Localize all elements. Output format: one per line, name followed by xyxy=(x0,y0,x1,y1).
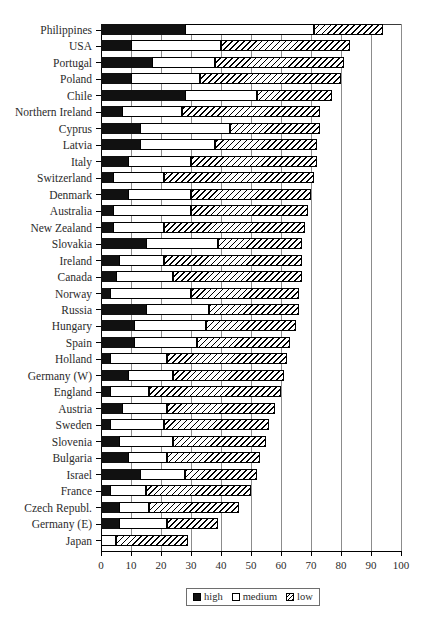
bar-segment-medium xyxy=(116,271,173,282)
bar-segment-high xyxy=(101,288,110,299)
bar-segment-medium xyxy=(119,436,173,447)
x-tick-label-100: 100 xyxy=(381,559,421,571)
category-label-philippines: Philippines xyxy=(0,24,92,36)
legend-swatch-low-icon xyxy=(286,593,294,601)
bar-segment-high xyxy=(101,419,110,430)
bar-segment-medium xyxy=(110,419,164,430)
category-label-france: France xyxy=(0,485,92,497)
bar-segment-low xyxy=(164,172,314,183)
legend-label-low: low xyxy=(297,591,313,602)
x-tick-50 xyxy=(251,551,252,556)
bar-segment-low xyxy=(191,205,308,216)
bar-segment-high xyxy=(101,156,128,167)
bar-segment-medium xyxy=(122,403,167,414)
x-tick-60 xyxy=(281,551,282,556)
category-label-latvia: Latvia xyxy=(0,139,92,151)
bar-segment-low xyxy=(164,419,269,430)
legend-item-high: high xyxy=(193,591,223,602)
bar-segment-high xyxy=(101,238,146,249)
category-label-czech-republ: Czech Republ. xyxy=(0,502,92,514)
bar-segment-high xyxy=(101,469,140,480)
bar-segment-high xyxy=(101,337,134,348)
bar-segment-low xyxy=(257,90,332,101)
legend-label-high: high xyxy=(204,591,223,602)
bar-segment-low xyxy=(146,485,251,496)
category-label-hungary: Hungary xyxy=(0,320,92,332)
bar-segment-low xyxy=(173,370,284,381)
category-label-germany-e: Germany (E) xyxy=(0,518,92,530)
bar-segment-medium xyxy=(146,304,209,315)
bar-segment-low xyxy=(173,271,302,282)
bar-segment-low xyxy=(167,353,287,364)
bar-segment-low xyxy=(215,139,317,150)
bar-segment-high xyxy=(101,502,119,513)
bar-segment-medium xyxy=(119,255,164,266)
bar-segment-high xyxy=(101,57,152,68)
x-tick-40 xyxy=(221,551,222,556)
bar-segment-medium xyxy=(140,123,230,134)
x-tick-20 xyxy=(161,551,162,556)
category-label-russia: Russia xyxy=(0,304,92,316)
bar-segment-high xyxy=(101,24,185,35)
bar-segment-high xyxy=(101,40,131,51)
bar-segment-medium xyxy=(110,485,146,496)
bar-segment-medium xyxy=(131,40,221,51)
category-label-austria: Austria xyxy=(0,403,92,415)
bar-segment-low xyxy=(215,57,344,68)
bar-segment-medium xyxy=(113,205,191,216)
bar-segment-high xyxy=(101,436,119,447)
category-label-canada: Canada xyxy=(0,271,92,283)
category-label-chile: Chile xyxy=(0,90,92,102)
bar-segment-high xyxy=(101,320,134,331)
chart-legend: high medium low xyxy=(186,588,320,606)
bar-segment-medium xyxy=(122,106,182,117)
category-label-italy: Italy xyxy=(0,156,92,168)
bar-segment-low xyxy=(185,469,257,480)
bar-segment-low xyxy=(230,123,320,134)
bar-segment-low xyxy=(164,255,302,266)
x-tick-100 xyxy=(401,551,402,556)
bar-segment-medium xyxy=(134,320,206,331)
bar-segment-low xyxy=(206,320,296,331)
category-label-poland: Poland xyxy=(0,73,92,85)
bar-segment-medium xyxy=(110,353,167,364)
bar-segment-medium xyxy=(119,518,167,529)
category-label-northern-ireland: Northern Ireland xyxy=(0,106,92,118)
bar-segment-high xyxy=(101,452,128,463)
bar-segment-high xyxy=(101,189,128,200)
category-label-japan: Japan xyxy=(0,535,92,547)
category-label-new-zealand: New Zealand xyxy=(0,222,92,234)
bar-segment-low xyxy=(314,24,383,35)
category-label-sweden: Sweden xyxy=(0,419,92,431)
x-tick-80 xyxy=(341,551,342,556)
category-label-switzerland: Switzerland xyxy=(0,172,92,184)
bar-segment-low xyxy=(191,189,311,200)
bar-segment-low xyxy=(164,222,305,233)
category-label-bulgaria: Bulgaria xyxy=(0,452,92,464)
bar-segment-high xyxy=(101,139,140,150)
bar-segment-medium xyxy=(152,57,215,68)
bar-segment-high xyxy=(101,106,122,117)
bar-segment-high xyxy=(101,518,119,529)
bar-segment-medium xyxy=(140,469,185,480)
x-tick-30 xyxy=(191,551,192,556)
bar-segment-medium xyxy=(113,172,164,183)
bar-segment-medium xyxy=(101,535,116,546)
bar-segment-high xyxy=(101,205,113,216)
category-label-england: England xyxy=(0,386,92,398)
bar-segment-medium xyxy=(119,502,149,513)
category-label-spain: Spain xyxy=(0,337,92,349)
category-label-ireland: Ireland xyxy=(0,255,92,267)
category-label-slovenia: Slovenia xyxy=(0,436,92,448)
bar-segment-low xyxy=(191,156,317,167)
legend-item-low: low xyxy=(286,591,313,602)
bar-segment-medium xyxy=(140,139,215,150)
bar-segment-low xyxy=(173,436,266,447)
bar-segment-medium xyxy=(185,24,314,35)
bar-segment-medium xyxy=(128,189,191,200)
bar-segment-medium xyxy=(134,337,197,348)
category-label-israel: Israel xyxy=(0,469,92,481)
bar-segment-low xyxy=(191,288,299,299)
category-label-usa: USA xyxy=(0,40,92,52)
bar-segment-medium xyxy=(131,73,200,84)
